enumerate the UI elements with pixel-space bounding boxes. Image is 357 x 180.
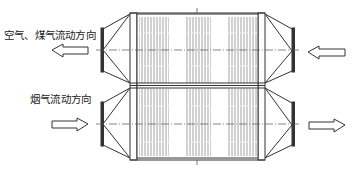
right-inlet-hood-upper <box>265 14 295 83</box>
lower-right-arrow-icon <box>309 119 345 132</box>
heat-exchanger-core <box>130 8 265 165</box>
lower-left-arrow-icon <box>52 118 88 131</box>
right-inlet-hood-lower <box>265 88 295 158</box>
upper-left-arrow-icon <box>52 44 88 57</box>
heat-exchanger-diagram <box>0 0 357 180</box>
upper-right-arrow-icon <box>308 46 345 59</box>
left-inlet-hood-lower <box>101 88 130 158</box>
left-inlet-hood-upper <box>101 14 130 83</box>
